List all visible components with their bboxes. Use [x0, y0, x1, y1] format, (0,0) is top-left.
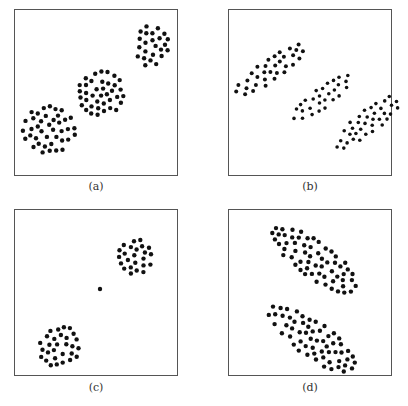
data-point — [348, 121, 352, 125]
data-point — [395, 100, 399, 104]
data-point — [324, 246, 328, 250]
data-point — [284, 64, 288, 68]
data-point — [290, 326, 294, 330]
data-point — [52, 348, 56, 352]
data-point — [283, 233, 287, 237]
data-point — [329, 249, 333, 253]
data-point — [73, 133, 77, 137]
data-point — [273, 312, 277, 316]
data-point — [321, 87, 325, 91]
data-point — [282, 70, 286, 74]
data-point — [330, 269, 334, 273]
data-point — [373, 112, 377, 116]
data-point — [51, 118, 55, 122]
data-point — [23, 119, 27, 123]
data-point — [254, 83, 258, 87]
data-point — [150, 38, 154, 42]
data-point — [39, 129, 43, 133]
data-point — [383, 99, 387, 103]
data-point — [110, 89, 114, 93]
data-point — [34, 136, 38, 140]
data-point — [298, 260, 302, 264]
data-point — [298, 330, 302, 334]
data-point — [94, 87, 98, 91]
data-point — [78, 89, 82, 93]
data-point — [389, 112, 393, 116]
data-point — [39, 119, 43, 123]
data-point — [299, 230, 303, 234]
data-point — [327, 92, 331, 96]
data-point — [363, 108, 367, 112]
data-point — [303, 272, 307, 276]
data-point — [336, 365, 340, 369]
data-point — [51, 128, 55, 132]
data-point — [339, 139, 343, 143]
data-point — [121, 94, 125, 98]
data-point — [63, 118, 67, 122]
data-point — [31, 145, 35, 149]
data-point — [346, 267, 350, 271]
data-point — [64, 342, 68, 346]
data-point — [273, 63, 277, 67]
data-point — [280, 314, 284, 318]
data-point — [354, 132, 358, 136]
data-point — [84, 98, 88, 102]
data-point — [326, 334, 330, 338]
data-point — [72, 126, 76, 130]
data-point — [351, 354, 355, 358]
data-point — [28, 133, 32, 137]
data-point — [54, 135, 58, 139]
data-point — [316, 251, 320, 255]
data-point — [353, 360, 357, 364]
data-point — [323, 282, 327, 286]
data-point — [371, 117, 375, 121]
data-point — [165, 48, 169, 52]
data-point — [311, 236, 315, 240]
data-point — [327, 350, 331, 354]
data-point — [38, 341, 42, 345]
data-point — [359, 128, 363, 132]
data-point — [143, 63, 147, 67]
data-point — [64, 336, 68, 340]
data-point — [62, 325, 66, 329]
data-point — [292, 117, 296, 121]
data-point — [308, 106, 312, 110]
data-point — [101, 86, 105, 90]
data-point — [297, 42, 301, 46]
data-point — [305, 353, 309, 357]
data-point — [68, 358, 72, 362]
data-point — [151, 53, 155, 57]
data-point — [154, 62, 158, 66]
data-point — [113, 83, 117, 87]
data-point — [138, 238, 142, 242]
data-point — [144, 24, 148, 28]
data-point — [306, 325, 310, 329]
data-point — [100, 80, 104, 84]
data-point — [115, 95, 119, 99]
data-point — [273, 237, 277, 241]
data-point — [304, 99, 308, 103]
data-point — [293, 241, 297, 245]
data-point — [342, 129, 346, 133]
data-point — [255, 75, 259, 79]
data-point — [305, 236, 309, 240]
data-point — [47, 123, 51, 127]
data-point — [143, 250, 147, 254]
data-point — [350, 366, 354, 370]
data-point — [141, 270, 145, 274]
data-point — [74, 337, 78, 341]
data-point — [390, 103, 394, 107]
data-point — [268, 70, 272, 74]
data-point — [234, 90, 238, 94]
data-point — [343, 363, 347, 367]
data-point — [280, 227, 284, 231]
data-point — [312, 351, 316, 355]
data-point — [148, 58, 152, 62]
data-point — [345, 86, 349, 90]
data-point — [156, 26, 160, 30]
data-point — [343, 261, 347, 265]
data-point — [333, 261, 337, 265]
data-point — [60, 148, 64, 152]
data-point — [280, 331, 284, 335]
data-point — [305, 266, 309, 270]
